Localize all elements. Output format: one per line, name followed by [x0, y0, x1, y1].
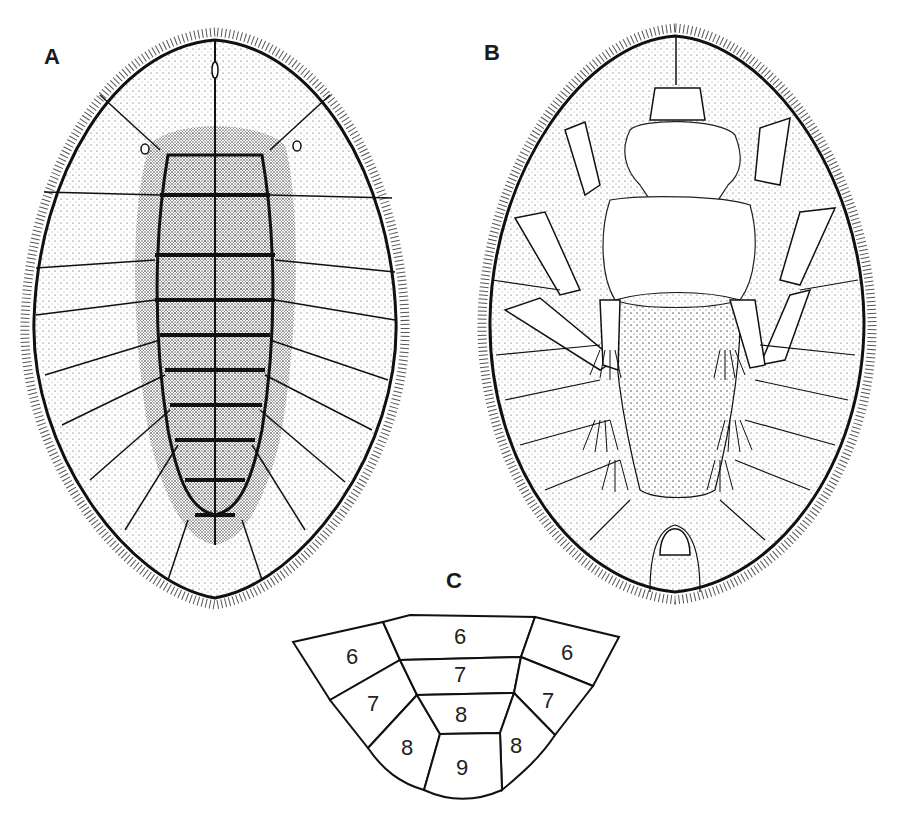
segment-label: 6: [561, 640, 573, 665]
segment-label: 7: [454, 662, 466, 687]
segment-label: 6: [346, 644, 358, 669]
segment-label: 7: [542, 688, 554, 713]
specimen-ventral-view: [482, 28, 872, 600]
left-eyespot: [141, 144, 149, 154]
segment-label: 9: [456, 755, 468, 780]
segment-label: 7: [367, 691, 379, 716]
right-eyespot: [293, 141, 301, 151]
segment-label: 6: [454, 624, 466, 649]
segment-label: 8: [401, 735, 413, 760]
segment-label: 8: [510, 733, 522, 758]
mesothorax: [603, 197, 755, 308]
segment-label: 8: [455, 702, 467, 727]
specimen-dorsal-view: [25, 32, 405, 605]
figure-canvas: 6 6 6 7 7 7 8 8 8 9: [0, 0, 911, 817]
anterior-pore: [212, 62, 218, 78]
labium: [650, 88, 705, 120]
